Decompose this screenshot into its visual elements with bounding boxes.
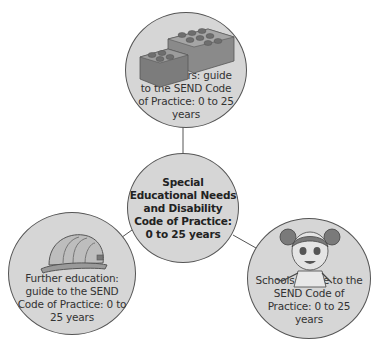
central-label: Special Educational Needs and Disability…	[129, 176, 237, 241]
node-early-years: Early years: guide to the SEND Code of P…	[125, 12, 247, 128]
hard-hat-icon	[39, 231, 111, 277]
girl-character-icon	[270, 225, 350, 291]
node-schools: Schools: guide to the SEND Code of Pract…	[247, 218, 371, 339]
node-further-education: Further education: guide to the SEND Cod…	[8, 212, 136, 335]
lego-bricks-icon	[138, 27, 238, 89]
node-label: Further education: guide to the SEND Cod…	[16, 272, 128, 324]
central-node: Special Educational Needs and Disability…	[127, 153, 239, 263]
